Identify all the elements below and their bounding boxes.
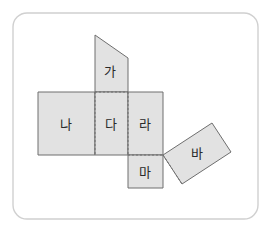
face-label-ba: 바 — [191, 146, 203, 161]
face-label-ra: 라 — [139, 117, 151, 132]
face-label-da: 다 — [105, 117, 117, 132]
figure-container: 가 나 다 라 마 바 — [0, 0, 273, 233]
face-label-ma: 마 — [139, 165, 151, 180]
face-label-na: 나 — [60, 117, 72, 132]
face-label-ga: 가 — [104, 64, 116, 79]
net-diagram: 가 나 다 라 마 바 — [0, 0, 273, 233]
